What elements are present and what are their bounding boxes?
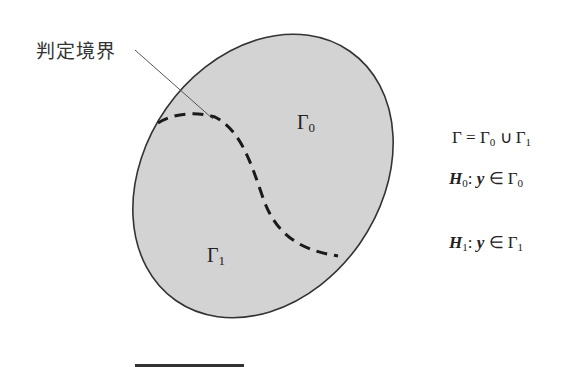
observation-space-ellipse — [79, 0, 447, 367]
equation-union: Γ = Γ0 ∪ Γ1 — [452, 127, 531, 148]
region-gamma1-label: Γ1 — [207, 244, 225, 269]
equation-h0: H0: y ∈ Γ0 — [449, 168, 523, 189]
equation-h1: H1: y ∈ Γ1 — [449, 232, 523, 253]
region-gamma0-label: Γ0 — [297, 111, 315, 136]
decision-boundary-label: 判定境界 — [36, 36, 116, 63]
